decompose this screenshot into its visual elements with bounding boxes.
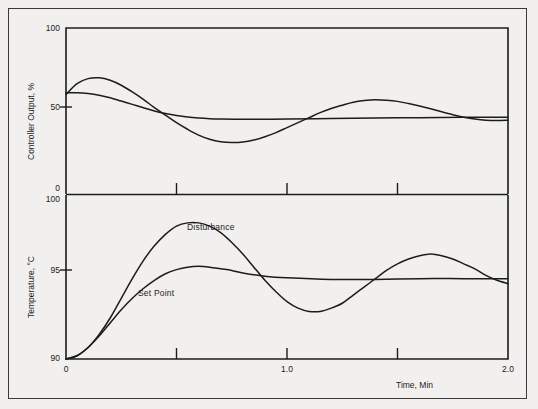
bottom-ytick-label-100: 100	[34, 194, 60, 204]
top-panel-curves	[66, 78, 508, 143]
top-y-axis-title: Controller Output, %	[26, 83, 36, 160]
top-panel-frame	[66, 28, 508, 194]
top-ytick-label-50: 50	[34, 102, 60, 112]
bottom-ytick-label-90: 90	[34, 353, 60, 363]
bottom-y-axis-title: Temperature, °C	[26, 256, 36, 318]
curve-bottom-disturbance	[66, 222, 508, 359]
curve-top-disturbance	[66, 78, 508, 143]
bottom-ytick-label-95: 95	[34, 265, 60, 275]
top-ytick-label-100: 100	[34, 23, 60, 33]
xtick-label-2p0: 2.0	[496, 364, 520, 374]
bottom-panel-curves	[66, 222, 508, 359]
top-panel-axes	[66, 28, 508, 194]
curve-label-setpoint: Set Point	[138, 288, 174, 298]
bottom-panel-frame	[66, 195, 508, 359]
x-axis-title: Time, Min	[396, 380, 433, 390]
curve-bottom-set-point	[66, 266, 508, 359]
curve-label-disturbance: Disturbance	[187, 222, 235, 232]
chart-figure: 100 50 0 100 95 90 0 1.0 2.0 Controller …	[0, 0, 538, 409]
xtick-label-0: 0	[58, 364, 74, 374]
top-ytick-label-0: 0	[34, 183, 60, 193]
bottom-panel-axes	[66, 195, 508, 359]
curve-top-set-point	[66, 93, 508, 120]
xtick-label-1p0: 1.0	[275, 364, 299, 374]
plot-canvas	[0, 0, 538, 409]
